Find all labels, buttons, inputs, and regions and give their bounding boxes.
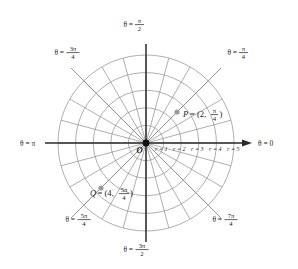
point-p-equals: = (2, bbox=[190, 109, 206, 119]
angle-label-5pi-over-4: θ = 5π 4 bbox=[65, 212, 90, 228]
radial-label-r2: r = 2 bbox=[173, 146, 186, 152]
angle-label-pi-over-4: θ = π 4 bbox=[227, 45, 248, 61]
radial-label-r4: r = 4 bbox=[209, 146, 222, 152]
origin-label: O bbox=[137, 145, 143, 155]
angle-label-3pi-over-4: θ = 3π 4 bbox=[54, 45, 79, 61]
angle-5pi-4-numerator: 5π bbox=[81, 212, 88, 219]
point-p-frac-denominator: 4 bbox=[213, 115, 217, 122]
angle-5pi-4-denominator: 4 bbox=[82, 220, 86, 227]
ray-pi-4 bbox=[146, 68, 221, 143]
ray-5pi-4 bbox=[71, 143, 146, 218]
angle-pi-4-prefix: θ = bbox=[227, 48, 237, 57]
angle-5pi-4-prefix: θ = bbox=[65, 215, 75, 224]
radial-label-r5: r = 5 bbox=[227, 146, 240, 152]
origin-dot bbox=[143, 140, 150, 147]
angle-pi-2-denominator: 2 bbox=[138, 25, 141, 32]
angle-label-3pi-over-2: θ = 3π 2 bbox=[123, 242, 148, 258]
angle-3pi-2-prefix: θ = bbox=[123, 245, 133, 254]
ray-3pi-4 bbox=[71, 68, 146, 143]
angle-label-pi: θ = π bbox=[20, 139, 35, 148]
radial-label-r1: r = 1 bbox=[155, 146, 168, 152]
polar-coordinate-figure: O P = (2, π 4 ) Q = (4, 5π 4 ) r = 1 r =… bbox=[0, 0, 298, 269]
angle-7pi-4-denominator: 4 bbox=[229, 220, 233, 227]
angle-3pi-4-numerator: 3π bbox=[70, 45, 77, 52]
angle-7pi-4-prefix: θ = bbox=[212, 215, 222, 224]
ray-7pi-4 bbox=[146, 143, 221, 218]
angle-3pi-2-denominator: 2 bbox=[140, 250, 143, 257]
angle-pi-2-numerator: π bbox=[138, 17, 142, 24]
horizontal-axis-arrowhead bbox=[242, 139, 252, 146]
point-q-name: Q bbox=[90, 188, 97, 198]
angle-label-pi-over-2: θ = π 2 bbox=[123, 17, 144, 33]
angle-pi-2-prefix: θ = bbox=[123, 20, 133, 29]
angle-pi-4-denominator: 4 bbox=[242, 53, 246, 60]
point-p-close-paren: ) bbox=[220, 109, 223, 119]
angle-pi-4-numerator: π bbox=[242, 45, 246, 52]
angle-label-zero: θ = 0 bbox=[258, 139, 273, 148]
point-p-label: P = (2, π 4 ) bbox=[182, 107, 223, 123]
angle-3pi-2-numerator: 3π bbox=[139, 242, 146, 249]
point-q-close-paren: ) bbox=[130, 188, 133, 198]
point-q-frac-denominator: 4 bbox=[122, 194, 126, 201]
polar-plot-svg: O P = (2, π 4 ) Q = (4, 5π 4 ) r = 1 r =… bbox=[0, 0, 298, 269]
radial-label-r3: r = 3 bbox=[191, 146, 204, 152]
angle-7pi-4-numerator: 7π bbox=[228, 212, 235, 219]
point-p-dot[interactable] bbox=[174, 109, 179, 114]
angle-3pi-4-denominator: 4 bbox=[71, 53, 75, 60]
point-p-frac-numerator: π bbox=[213, 107, 217, 114]
point-q-equals: = (4, bbox=[98, 188, 114, 198]
angle-3pi-4-prefix: θ = bbox=[54, 48, 64, 57]
point-q-frac-numerator: 5π bbox=[121, 186, 128, 193]
point-p-name: P bbox=[182, 109, 189, 119]
